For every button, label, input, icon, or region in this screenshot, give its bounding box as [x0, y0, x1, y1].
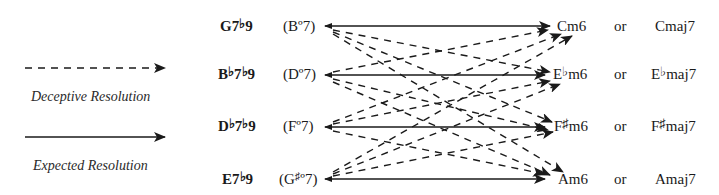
target-quality: maj7	[666, 66, 696, 82]
diminished-chord-d: (Dº7)	[283, 67, 316, 82]
target-quality: m6	[568, 66, 587, 82]
flat-sign: ♭	[240, 169, 246, 184]
sharp-sign: ♯	[295, 170, 301, 182]
or-label: or	[614, 172, 627, 187]
dim-root: (B	[283, 18, 298, 34]
dim-symbol: º7)	[296, 118, 313, 134]
dim-symbol: º7)	[298, 18, 315, 34]
chord-root: G	[220, 18, 232, 34]
flat-sign: ♭	[242, 116, 248, 131]
target-quality: m6	[569, 118, 588, 134]
target-am6: Am6	[558, 172, 588, 187]
legend-deceptive-label: Deceptive Resolution	[31, 90, 150, 104]
target-ebm6: E♭m6	[553, 67, 587, 82]
sharp-sign: ♯	[659, 116, 666, 131]
or-label: or	[614, 119, 627, 134]
chord-root: D	[218, 118, 229, 134]
target-amaj7: Amaj7	[655, 172, 696, 187]
chord-resolution-diagram: Deceptive Resolution Expected Resolution…	[0, 0, 719, 195]
flat-sign: ♭	[228, 64, 234, 79]
target-quality: maj7	[666, 118, 696, 134]
sharp-sign: ♯	[562, 116, 569, 131]
flat-sign: ♭	[660, 64, 666, 79]
or-label: or	[614, 67, 627, 82]
dim-root: (F	[283, 118, 296, 134]
chord-root: E	[222, 171, 232, 187]
chord-root: B	[218, 66, 228, 82]
or-label: or	[614, 19, 627, 34]
target-root: C	[557, 18, 567, 34]
target-root: E	[553, 66, 562, 82]
target-fsharpmaj7: F♯maj7	[651, 119, 696, 134]
dim-root: (D	[283, 66, 299, 82]
legend-expected-label: Expected Resolution	[33, 159, 148, 173]
flat-sign: ♭	[242, 64, 248, 79]
chord-extension: 9	[248, 66, 256, 82]
diminished-chord-gsharp: (G♯º7)	[279, 172, 317, 187]
flat-sign: ♭	[239, 16, 245, 31]
target-root: C	[655, 18, 665, 34]
dim-symbol: º7)	[300, 171, 317, 187]
target-quality: m6	[567, 18, 586, 34]
target-quality: maj7	[665, 18, 695, 34]
chord-extension: 9	[245, 18, 253, 34]
target-cmaj7: Cmaj7	[655, 19, 695, 34]
chord-extension: 9	[246, 171, 254, 187]
chord-quality: 7	[232, 171, 240, 187]
dominant-chord-bb7b9: B♭7♭9	[218, 67, 255, 82]
dim-symbol: º7)	[299, 66, 316, 82]
target-quality: m6	[569, 171, 588, 187]
deceptive-arrows	[333, 30, 572, 176]
flat-sign: ♭	[562, 64, 568, 79]
flat-sign: ♭	[229, 116, 235, 131]
target-fsharpm6: F♯m6	[554, 119, 588, 134]
target-root: A	[558, 171, 569, 187]
target-ebmaj7: E♭maj7	[651, 67, 696, 82]
dominant-chord-e7b9: E7♭9	[222, 172, 253, 187]
dim-root: (G	[279, 171, 295, 187]
chord-extension: 9	[248, 118, 256, 134]
dominant-chord-db7b9: D♭7♭9	[218, 119, 256, 134]
dominant-chord-g7b9: G7♭9	[220, 19, 253, 34]
target-cm6: Cm6	[557, 19, 586, 34]
diminished-chord-b: (Bº7)	[283, 19, 315, 34]
target-root: A	[655, 171, 666, 187]
diminished-chord-f: (Fº7)	[283, 119, 314, 134]
chord-quality: 7	[234, 66, 242, 82]
target-root: E	[651, 66, 660, 82]
target-quality: maj7	[666, 171, 696, 187]
